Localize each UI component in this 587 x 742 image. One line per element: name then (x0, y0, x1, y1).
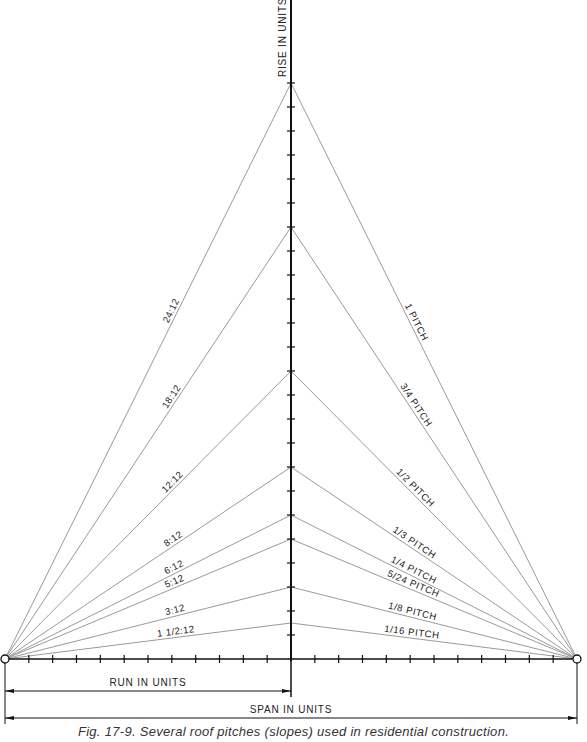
pitch-fraction-label: 1/8 PITCH (387, 600, 438, 623)
run-axis-label: RUN IN UNITS (110, 677, 187, 688)
slope-label: 1 1/2:12 (156, 623, 195, 639)
arrowhead-icon (5, 716, 14, 720)
arrowhead-icon (568, 716, 577, 720)
axes (1, 0, 581, 724)
arrowhead-icon (5, 689, 14, 693)
pitch-line-left (5, 371, 291, 659)
slope-label: 8:12 (162, 528, 185, 548)
slope-label: 3:12 (164, 602, 186, 618)
rise-axis-label: RISE IN UNITS (277, 0, 288, 77)
pitch-line-left (5, 467, 291, 659)
pitch-line-left (5, 587, 291, 659)
pitch-line-left (5, 515, 291, 659)
span-axis-label: SPAN IN UNITS (250, 704, 332, 715)
left-pivot-icon (1, 655, 9, 663)
arrowhead-icon (282, 689, 291, 693)
figure-caption: Fig. 17-9. Several roof pitches (slopes)… (0, 724, 587, 739)
pitch-line-left (5, 83, 291, 659)
pitch-fraction-label: 1/2 PITCH (394, 466, 437, 509)
pitch-line-left (5, 227, 291, 659)
roof-pitch-diagram: 24:121 PITCH18:123/4 PITCH12:121/2 PITCH… (0, 0, 587, 742)
pitch-fraction-label: 3/4 PITCH (398, 381, 435, 429)
right-pivot-icon (573, 655, 581, 663)
